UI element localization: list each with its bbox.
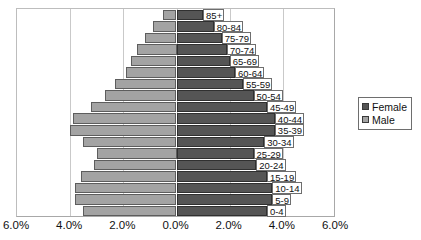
age-group-label-60-64: 60-64	[235, 67, 264, 79]
bar-female-15-19	[177, 171, 267, 182]
x-tick-label: 0.0%	[162, 219, 188, 231]
bar-male-20-24	[94, 160, 176, 171]
bar-male-30-34	[83, 137, 176, 148]
x-axis-tick-labels: 6.0%4.0%2.0%0.0%2.0%4.0%6.0%	[0, 219, 421, 240]
bar-female-75-79	[177, 33, 222, 44]
age-group-label-15-19: 15-19	[267, 171, 296, 183]
bar-row: 15-19	[17, 171, 334, 183]
bar-male-25-29	[97, 148, 177, 159]
bar-female-5-9	[177, 194, 273, 205]
bar-row: 55-59	[17, 78, 334, 90]
age-group-label-50-54: 50-54	[254, 90, 283, 102]
bar-male-50-54	[105, 90, 177, 101]
bar-female-35-39	[177, 125, 275, 136]
x-tick-label: 4.0%	[56, 219, 82, 231]
legend-item-male[interactable]: Male	[362, 113, 407, 126]
bar-female-65-69	[177, 56, 230, 67]
bar-male-65-69	[131, 56, 176, 67]
age-group-label-75-79: 75-79	[222, 32, 251, 44]
bar-female-45-49	[177, 102, 267, 113]
bar-female-50-54	[177, 90, 254, 101]
bar-male-55-59	[115, 79, 176, 90]
x-tick-label: 6.0%	[3, 219, 29, 231]
age-group-label-0-4: 0-4	[267, 205, 286, 217]
bar-male-45-49	[91, 102, 176, 113]
age-group-label-30-34: 30-34	[264, 136, 293, 148]
bar-male-40-44	[73, 113, 177, 124]
bar-row: 0-4	[17, 205, 334, 217]
bar-female-30-34	[177, 137, 265, 148]
bar-row: 40-44	[17, 113, 334, 125]
bar-male-60-64	[126, 67, 177, 78]
x-tick-label: 6.0%	[322, 219, 348, 231]
bar-female-80-84	[177, 21, 214, 32]
age-group-label-10-14: 10-14	[272, 182, 301, 194]
bar-row: 85+	[17, 9, 334, 21]
bar-female-10-14	[177, 183, 273, 194]
bar-male-35-39	[70, 125, 176, 136]
bar-female-25-29	[177, 148, 254, 159]
age-group-label-65-69: 65-69	[230, 55, 259, 67]
legend-swatch-icon-female	[362, 103, 369, 110]
bar-male-70-74	[137, 44, 177, 55]
age-group-label-80-84: 80-84	[214, 21, 243, 33]
age-group-label-40-44: 40-44	[275, 113, 304, 125]
chart-legend: FemaleMale	[358, 97, 412, 130]
bar-row: 35-39	[17, 124, 334, 136]
bar-row: 80-84	[17, 21, 334, 33]
bar-male-5-9	[75, 194, 176, 205]
bar-row: 25-29	[17, 148, 334, 160]
legend-item-female[interactable]: Female	[362, 100, 407, 113]
age-group-label-85+: 85+	[203, 9, 224, 21]
bar-row: 60-64	[17, 67, 334, 79]
age-group-label-20-24: 20-24	[256, 159, 285, 171]
bar-row: 5-9	[17, 194, 334, 206]
bar-row: 30-34	[17, 136, 334, 148]
bar-male-85+	[163, 10, 176, 21]
bar-male-80-84	[153, 21, 177, 32]
bar-male-15-19	[81, 171, 177, 182]
x-tick-label: 2.0%	[109, 219, 135, 231]
bar-row: 45-49	[17, 101, 334, 113]
bar-row: 75-79	[17, 32, 334, 44]
bar-row: 65-69	[17, 55, 334, 67]
age-group-label-25-29: 25-29	[254, 148, 283, 160]
bar-female-60-64	[177, 67, 235, 78]
age-group-label-45-49: 45-49	[267, 101, 296, 113]
age-group-label-70-74: 70-74	[227, 44, 256, 56]
age-group-label-35-39: 35-39	[275, 124, 304, 136]
bar-row: 10-14	[17, 182, 334, 194]
population-pyramid-chart: 85+80-8475-7970-7465-6960-6455-5950-5445…	[0, 0, 421, 240]
legend-swatch-icon-male	[362, 116, 369, 123]
age-group-label-55-59: 55-59	[243, 78, 272, 90]
legend-label: Female	[372, 101, 407, 113]
bar-row: 20-24	[17, 159, 334, 171]
x-tick-label: 2.0%	[216, 219, 242, 231]
legend-label: Male	[372, 114, 395, 126]
bar-male-0-4	[83, 206, 176, 217]
bar-row: 70-74	[17, 44, 334, 56]
bar-female-40-44	[177, 113, 275, 124]
plot-area: 85+80-8475-7970-7465-6960-6455-5950-5445…	[16, 8, 335, 217]
bar-female-55-59	[177, 79, 243, 90]
age-group-label-5-9: 5-9	[272, 194, 291, 206]
bar-male-75-79	[145, 33, 177, 44]
bar-female-85+	[177, 10, 204, 21]
bar-female-20-24	[177, 160, 257, 171]
bar-rows: 85+80-8475-7970-7465-6960-6455-5950-5445…	[17, 9, 334, 216]
bar-female-70-74	[177, 44, 228, 55]
bar-female-0-4	[177, 206, 267, 217]
x-tick-label: 4.0%	[269, 219, 295, 231]
bar-row: 50-54	[17, 90, 334, 102]
bar-male-10-14	[75, 183, 176, 194]
